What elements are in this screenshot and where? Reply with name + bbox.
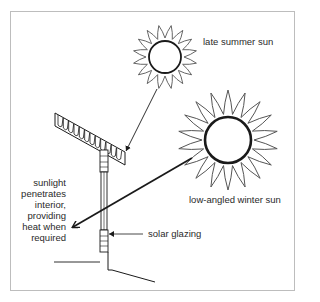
- sunlight-line: providing: [20, 210, 66, 221]
- summer-sun-icon: [134, 26, 197, 89]
- ground: [54, 252, 155, 282]
- sunlight-line: heat when: [20, 221, 66, 232]
- solar-glazing-label: solar glazing: [148, 228, 201, 239]
- summer-sun-label: late summer sun: [203, 36, 273, 47]
- winter-sun-label: low-angled winter sun: [189, 194, 281, 205]
- sunlight-line: sunlight: [20, 177, 66, 188]
- sunlight-penetrates-label: sunlight penetrates interior, providing …: [20, 177, 66, 243]
- sunlight-line: interior,: [20, 199, 66, 210]
- roof-overhang: [55, 113, 125, 165]
- summer-sun-ray-arrow: [126, 89, 157, 151]
- winter-sun-ray-arrow: [73, 158, 192, 227]
- sunlight-line: penetrates: [20, 188, 66, 199]
- wall: [100, 150, 108, 172]
- lower-wall: [100, 230, 108, 252]
- winter-sun-icon: [179, 90, 277, 190]
- sunlight-line: required: [20, 232, 66, 243]
- solar-glazing: [101, 172, 107, 230]
